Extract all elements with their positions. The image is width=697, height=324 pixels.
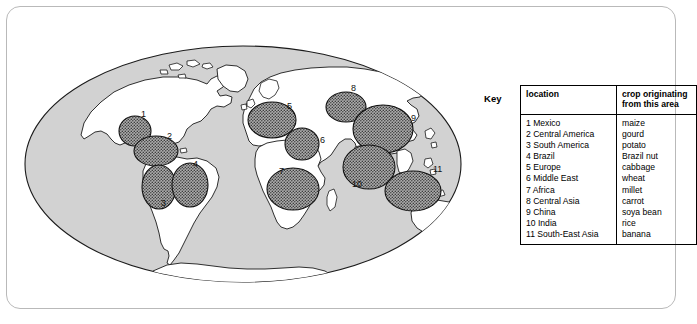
origin-region-6	[285, 128, 319, 160]
region-label-8: 8	[351, 83, 356, 93]
table-row: 10 India rice	[521, 218, 697, 229]
table-row: 7 Africa millet	[521, 185, 697, 196]
key-cell-crop: potato	[617, 140, 697, 151]
key-cell-location: 4 Brazil	[521, 151, 617, 162]
region-label-2: 2	[167, 131, 172, 141]
key-cell-location: 5 Europe	[521, 162, 617, 173]
key-cell-location: 8 Central Asia	[521, 196, 617, 207]
region-label-6: 6	[320, 135, 325, 145]
key-cell-location: 11 South-East Asia	[521, 229, 617, 245]
region-label-3: 3	[161, 198, 166, 208]
region-label-4: 4	[193, 159, 198, 169]
table-row: 4 Brazil Brazil nut	[521, 151, 697, 162]
key-header-location: location	[521, 86, 617, 115]
key-cell-location: 9 China	[521, 207, 617, 218]
key-cell-crop: maize	[617, 114, 697, 129]
key-cell-crop: wheat	[617, 173, 697, 184]
key-label: Key	[484, 93, 502, 104]
key-header-crop: crop originating from this area	[617, 86, 697, 115]
key-cell-location: 7 Africa	[521, 185, 617, 196]
origin-region-7	[267, 168, 319, 210]
key-cell-location: 6 Middle East	[521, 173, 617, 184]
table-row: 11 South-East Asia banana	[521, 229, 697, 245]
region-label-1: 1	[141, 109, 146, 119]
key-cell-crop: carrot	[617, 196, 697, 207]
key-cell-crop: soya bean	[617, 207, 697, 218]
key-cell-crop: cabbage	[617, 162, 697, 173]
region-label-5: 5	[287, 101, 292, 111]
world-map: 1 2 3 4 5 6 7 8 9 10 11	[21, 39, 466, 289]
key-cell-crop: millet	[617, 185, 697, 196]
key-table-head: location crop originating from this area	[521, 86, 697, 115]
origin-region-3	[142, 165, 176, 209]
key-cell-location: 2 Central America	[521, 129, 617, 140]
region-label-10: 10	[352, 179, 362, 189]
key-table: location crop originating from this area…	[520, 85, 697, 245]
key-cell-crop: gourd	[617, 129, 697, 140]
key-cell-crop: rice	[617, 218, 697, 229]
key-table-header-row: location crop originating from this area	[521, 86, 697, 115]
key-header-crop-line2: from this area	[622, 99, 679, 109]
table-row: 3 South America potato	[521, 140, 697, 151]
key-header-crop-line1: crop originating	[622, 89, 687, 99]
table-row: 9 China soya bean	[521, 207, 697, 218]
key-cell-location: 10 India	[521, 218, 617, 229]
key-table-body: 1 Mexico maize 2 Central America gourd 3…	[521, 114, 697, 244]
table-row: 1 Mexico maize	[521, 114, 697, 129]
key-block: Key location crop originating from this …	[477, 85, 677, 240]
key-cell-crop: Brazil nut	[617, 151, 697, 162]
world-map-svg: 1 2 3 4 5 6 7 8 9 10 11	[21, 39, 466, 289]
origin-region-11	[385, 171, 441, 211]
table-row: 5 Europe cabbage	[521, 162, 697, 173]
region-label-9: 9	[411, 113, 416, 123]
table-row: 2 Central America gourd	[521, 129, 697, 140]
table-row: 8 Central Asia carrot	[521, 196, 697, 207]
origin-region-4	[172, 163, 208, 207]
key-cell-crop: banana	[617, 229, 697, 245]
region-label-7: 7	[279, 166, 284, 176]
key-cell-location: 1 Mexico	[521, 114, 617, 129]
land-new-zealand	[451, 237, 466, 253]
figure-frame: 1 2 3 4 5 6 7 8 9 10 11 Key location cr	[6, 6, 676, 309]
table-row: 6 Middle East wheat	[521, 173, 697, 184]
key-cell-location: 3 South America	[521, 140, 617, 151]
region-label-11: 11	[433, 164, 442, 174]
